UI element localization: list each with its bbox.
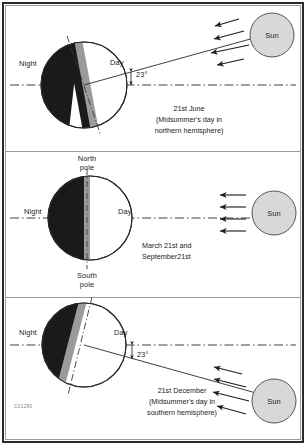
south-pole-label: South pole [77,271,97,289]
sun-label-equinox: Sun [267,209,280,218]
angle-indicator-23: 23° [131,70,147,85]
day-label-equinox: Day [118,207,132,216]
panel-equinox: North pole South pole Night Day Sun [6,151,300,297]
sunlight-rays [211,19,249,65]
figure-reference-code: C01290 [14,404,33,409]
svg-text:pole: pole [80,163,94,172]
svg-text:South: South [77,271,97,280]
sunlight-rays [213,367,249,414]
svg-text:North: North [78,154,97,163]
svg-text:pole: pole [80,280,94,289]
svg-text:September21st: September21st [142,252,191,261]
panel-june: 23° Sun Night Day 21st June (Midsummer's… [6,6,300,151]
angle-label-december: 23° [137,350,148,359]
sun-label-june: Sun [265,31,278,40]
svg-text:21st December: 21st December [158,386,207,395]
earth-seasons-figure: 23° Sun Night Day 21st June (Midsummer's… [0,0,306,445]
night-label-equinox: Night [24,207,42,216]
panel-december: 23° Sun Night Day 21st December (Midsumm… [6,297,300,438]
sun-body: Sun [250,13,294,57]
angle-indicator-23: 23° [132,345,148,359]
svg-text:March 21st and: March 21st and [142,241,192,250]
caption-december: 21st December (Midsummer's day in southe… [147,386,217,417]
sun-label-december: Sun [267,397,280,406]
caption-equinox: March 21st and September21st [142,241,192,261]
svg-text:21st June: 21st June [173,104,204,113]
angle-label-june: 23° [136,70,147,79]
svg-text:(Midsummer's day in: (Midsummer's day in [149,397,215,406]
night-label-december: Night [19,328,37,337]
svg-text:southern hemisphere): southern hemisphere) [147,408,217,417]
caption-june: 21st June (Midsummer's day in northern h… [155,104,224,135]
sun-body: Sun [252,379,296,423]
svg-text:(Midsummer's day in: (Midsummer's day in [156,115,222,124]
earth-globe [40,169,132,269]
night-label-june: Night [19,59,37,68]
sun-body: Sun [252,191,296,235]
north-pole-label: North pole [78,154,97,172]
svg-text:northern hemisphere): northern hemisphere) [155,126,224,135]
day-label-june: Day [110,58,124,67]
day-label-december: Day [114,328,128,337]
sunlight-rays [220,195,246,231]
